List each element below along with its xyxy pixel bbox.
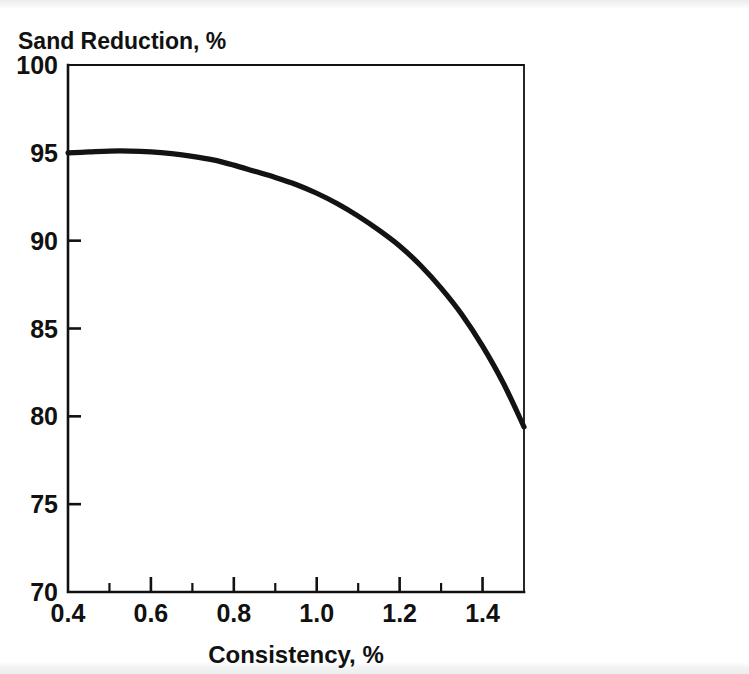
plot-frame: [68, 65, 524, 592]
x-tick-label-0.6: 0.6: [134, 599, 169, 627]
line-chart: Sand Reduction, % 707580859095100 0.40.6…: [0, 0, 749, 674]
x-axis-title: Consistency, %: [208, 641, 384, 668]
y-tick-label-95: 95: [30, 139, 58, 167]
y-tick-label-85: 85: [30, 315, 58, 343]
y-tick-label-80: 80: [30, 402, 58, 430]
y-axis-tick-labels: 707580859095100: [16, 51, 58, 606]
x-tick-label-1.4: 1.4: [465, 599, 500, 627]
axis-spines: [68, 65, 524, 592]
x-axis-ticks: [109, 577, 482, 592]
x-tick-label-1.2: 1.2: [382, 599, 417, 627]
y-tick-label-75: 75: [30, 490, 58, 518]
y-tick-label-100: 100: [16, 51, 58, 79]
chart-figure: Sand Reduction, % 707580859095100 0.40.6…: [0, 0, 749, 674]
y-tick-label-90: 90: [30, 227, 58, 255]
x-tick-label-1: 1.0: [299, 599, 334, 627]
data-series-sand-reduction: [68, 151, 524, 427]
x-axis-tick-labels: 0.40.60.81.01.21.4: [51, 599, 500, 627]
x-tick-label-0.8: 0.8: [216, 599, 251, 627]
x-tick-label-0.4: 0.4: [51, 599, 86, 627]
y-axis-ticks: [68, 153, 81, 504]
